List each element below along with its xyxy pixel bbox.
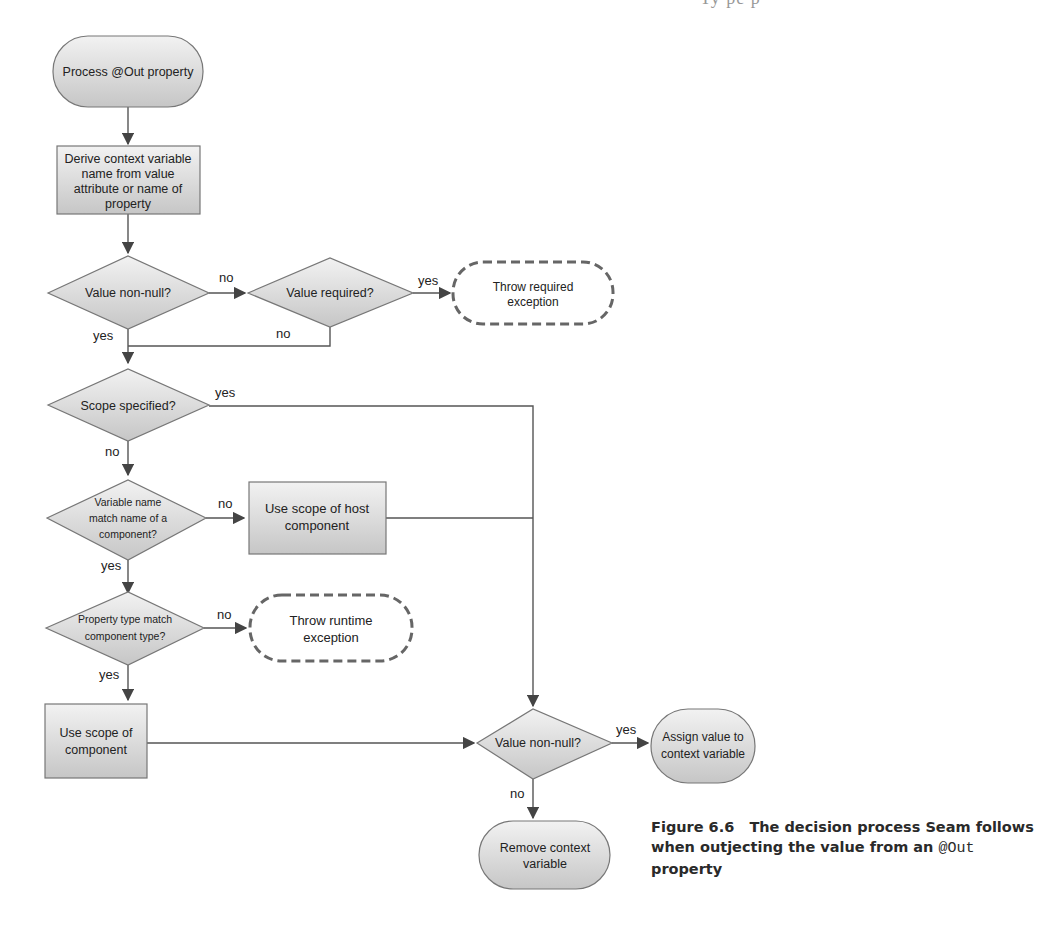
- node-derive-line-4: property: [105, 197, 152, 211]
- label-nn2-no: no: [510, 786, 524, 801]
- node-remove-variable: Remove context variable: [479, 821, 610, 889]
- node-use-host-scope: Use scope of host component: [249, 482, 386, 554]
- node-derive-line-3: attribute or name of: [74, 182, 183, 196]
- node-property-type-match-line-1: Property type match: [78, 613, 172, 625]
- node-throw-runtime-line-2: exception: [303, 630, 359, 645]
- label-scope-no: no: [105, 444, 119, 459]
- node-throw-runtime: Throw runtime exception: [250, 595, 412, 661]
- node-value-non-null-2-label: Value non-null?: [495, 736, 581, 750]
- node-assign-value: Assign value to context variable: [651, 709, 755, 783]
- node-value-non-null-2: Value non-null?: [477, 709, 612, 779]
- node-variable-name-match-line-2: match name of a: [89, 512, 167, 524]
- label-varmatch-no: no: [218, 496, 232, 511]
- label-nn2-yes: yes: [616, 722, 637, 737]
- figure-caption: Figure 6.6 The decision process Seam fol…: [651, 817, 1041, 879]
- figure-number: Figure 6.6: [651, 819, 734, 835]
- caption-text-2: property: [651, 861, 722, 877]
- node-derive-line-2: name from value: [81, 167, 174, 181]
- node-use-component-scope-line-2: component: [65, 743, 127, 757]
- caption-code: @Out: [938, 840, 974, 857]
- label-proptype-yes: yes: [99, 667, 120, 682]
- node-throw-required-line-1: Throw required: [493, 280, 574, 294]
- node-scope-specified-label: Scope specified?: [80, 399, 175, 413]
- label-req-yes: yes: [418, 273, 439, 288]
- node-use-component-scope: Use scope of component: [45, 704, 147, 778]
- node-assign-value-line-1: Assign value to: [662, 730, 744, 744]
- node-throw-runtime-line-1: Throw runtime: [289, 613, 372, 628]
- node-scope-specified: Scope specified?: [48, 369, 209, 441]
- label-proptype-no: no: [217, 607, 231, 622]
- label-scope-yes: yes: [215, 385, 236, 400]
- node-derive: Derive context variable name from value …: [57, 146, 200, 214]
- label-nn1-no: no: [219, 270, 233, 285]
- node-variable-name-match-line-1: Variable name: [95, 496, 162, 508]
- node-value-required: Value required?: [248, 258, 413, 327]
- node-use-component-scope-line-1: Use scope of: [60, 726, 133, 740]
- node-property-type-match-line-2: component type?: [85, 630, 166, 642]
- connectors: [128, 107, 648, 818]
- flowchart: Process @Out property Derive context var…: [0, 0, 1060, 938]
- node-value-non-null-1-label: Value non-null?: [85, 286, 171, 300]
- node-property-type-match: Property type match component type?: [46, 592, 204, 665]
- node-start-label: Process @Out property: [63, 65, 195, 79]
- label-varmatch-yes: yes: [101, 558, 122, 573]
- node-remove-variable-line-1: Remove context: [500, 841, 591, 855]
- node-derive-line-1: Derive context variable: [64, 152, 191, 166]
- label-req-no: no: [276, 326, 290, 341]
- node-use-host-scope-line-1: Use scope of host: [265, 501, 369, 516]
- node-value-required-label: Value required?: [286, 286, 373, 300]
- node-start: Process @Out property: [53, 36, 203, 107]
- node-assign-value-line-2: context variable: [661, 747, 745, 761]
- edge-req-no: [128, 327, 330, 346]
- node-variable-name-match-line-3: component?: [99, 528, 157, 540]
- node-use-host-scope-line-2: component: [285, 518, 350, 533]
- node-remove-variable-line-2: variable: [523, 857, 567, 871]
- node-throw-required: Throw required exception: [453, 262, 613, 324]
- label-nn1-yes: yes: [93, 328, 114, 343]
- node-throw-required-line-2: exception: [507, 295, 558, 309]
- node-value-non-null-1: Value non-null?: [48, 256, 209, 329]
- node-variable-name-match: Variable name match name of a component?: [47, 480, 206, 560]
